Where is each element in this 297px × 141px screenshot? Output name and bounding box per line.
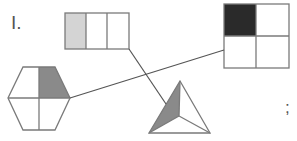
triangle-thirds [149, 81, 210, 133]
connector-rectangle-to-triangle [129, 49, 166, 104]
rectangle-thirds [65, 13, 129, 49]
rectangle-shaded-part [65, 13, 86, 49]
hexagon-quarters [8, 67, 70, 130]
hexagon-shaded-part [39, 67, 70, 98]
fraction-matching-diagram: I. ; [0, 0, 297, 141]
square-shaded-part [224, 4, 256, 36]
square-quarters [224, 4, 289, 68]
connector-hexagon-to-square [70, 50, 224, 98]
